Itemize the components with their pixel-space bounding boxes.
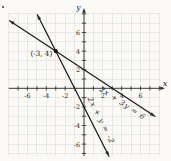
x-tick-label: 6 [138,92,142,100]
line-2x-plus-y-equals-minus-2-arrowhead [37,15,41,20]
y-tick-label: -6 [74,141,80,149]
x-axis-label: x [163,79,168,88]
graph-page: -6-4-2246-6-4-2246xy2x + 3y = 62x + y = … [0,0,171,161]
y-axis-arrowhead [82,8,86,13]
y-tick-label: -4 [74,122,80,130]
x-tick-label: -4 [43,92,49,100]
y-axis-label: y [75,3,81,12]
intersection-point-label: (-3, 4) [30,49,52,58]
x-tick-label: -6 [24,92,30,100]
coordinate-plane-chart: -6-4-2246-6-4-2246xy2x + 3y = 62x + y = … [0,0,171,161]
y-tick-label: 6 [76,29,80,37]
intersection-point [54,49,58,53]
y-tick-label: -2 [74,103,80,111]
x-tick-label: -2 [62,92,68,100]
y-tick-label: 4 [76,48,80,56]
